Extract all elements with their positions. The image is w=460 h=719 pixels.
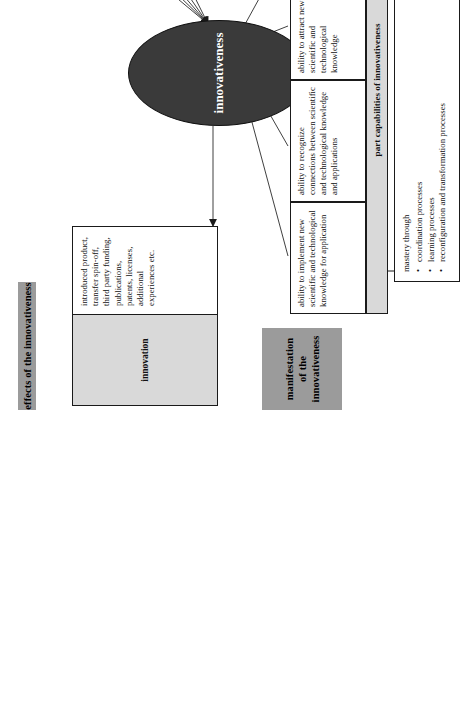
capability-box-2: ability to recognize connections between… — [290, 80, 366, 202]
capability-strip-text: part capabilities of innovativeness — [372, 24, 382, 157]
mastery-bullet-item: learning processes — [426, 0, 438, 272]
section-label-manifestation: manifestation of the innovativeness — [262, 328, 342, 410]
capability-strip-label: part capabilities of innovativeness — [366, 0, 388, 314]
core-node-label: innovativeness — [211, 33, 227, 114]
capability-box-3-text: ability to attract new scientific and te… — [296, 0, 340, 73]
innovation-outcome-item: publications, — [113, 235, 124, 306]
diagram-canvas: effects of the innovativeness innovative… — [0, 0, 426, 426]
mastery-bullet-item: coordination processes — [414, 0, 426, 272]
capability-box-2-text: ability to recognize connections between… — [296, 87, 340, 195]
innovation-outcome-item: transfer spin-off, — [90, 235, 101, 306]
innovation-header-text: innovation — [140, 338, 150, 381]
innovation-outcome-item: patents, licenses, — [124, 235, 135, 306]
capability-box-1-text: ability to implement new scientific and … — [296, 209, 329, 307]
core-node-innovativeness: innovativeness — [128, 20, 310, 126]
innovation-outcome-item: experiences etc. — [146, 235, 157, 306]
innovation-outcome-item: introduced product, — [79, 235, 90, 306]
section-label-effects-text: effects of the innovativeness — [22, 282, 33, 409]
mastery-header: mastery through — [401, 0, 412, 272]
section-label-manifestation-text: manifestation of the innovativeness — [283, 336, 322, 403]
capability-box-3: ability to attract new scientific and te… — [290, 0, 366, 80]
mastery-bullet-item: reconfiguration and transformation proce… — [437, 0, 449, 272]
capability-box-1: ability to implement new scientific and … — [290, 202, 366, 314]
innovation-header-panel: innovation — [72, 314, 218, 406]
mastery-bullet-list: coordination processes learning processe… — [414, 0, 449, 272]
innovation-outcome-item: third party funding, — [101, 235, 112, 306]
mastery-block: mastery through coordination processes l… — [394, 0, 460, 282]
innovation-outcome-item: additional — [135, 235, 146, 306]
innovation-outcomes-panel: introduced product, transfer spin-off, t… — [72, 226, 218, 314]
section-label-effects: effects of the innovativeness — [18, 282, 36, 410]
